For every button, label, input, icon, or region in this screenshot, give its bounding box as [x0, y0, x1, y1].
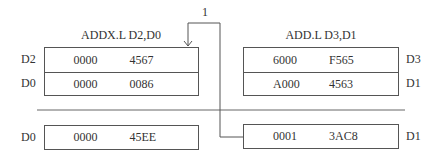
register-high-word: 6000 — [273, 53, 317, 68]
register-high-word: 0000 — [74, 130, 118, 145]
register-low-word: 3AC8 — [329, 129, 369, 144]
register-low-word: F565 — [329, 53, 369, 68]
left-row-label-0: D2 — [21, 47, 36, 71]
register-high-word: 0000 — [74, 77, 118, 92]
left-result-label: D0 — [21, 125, 36, 149]
left-result-box: 0000 45EE — [44, 125, 199, 150]
right-result-box: 0001 3AC8 — [243, 124, 399, 149]
right-instruction-title: ADD.L D3,D1 — [243, 28, 399, 43]
connector-label: 1 — [199, 5, 211, 20]
register-low-word: 0086 — [130, 77, 170, 92]
right-result-label: D1 — [406, 124, 421, 148]
left-result-row: 0000 45EE — [45, 126, 198, 149]
left-register-box: 0000 4567 0000 0086 — [44, 47, 199, 96]
register-low-word: 45EE — [130, 130, 170, 145]
left-instruction-title: ADDX.L D2,D0 — [44, 28, 198, 43]
right-register-row-d3: 6000 F565 — [244, 48, 398, 72]
register-high-word: 0001 — [273, 129, 317, 144]
right-register-box: 6000 F565 A000 4563 — [243, 47, 399, 96]
right-row-label-1: D1 — [406, 71, 421, 95]
register-low-word: 4563 — [329, 77, 369, 92]
register-low-word: 4567 — [130, 53, 170, 68]
register-high-word: A000 — [273, 77, 317, 92]
left-register-row-d2: 0000 4567 — [45, 48, 198, 72]
right-row-label-0: D3 — [406, 47, 421, 71]
right-register-row-d1: A000 4563 — [244, 72, 398, 96]
left-register-row-d0: 0000 0086 — [45, 72, 198, 96]
register-high-word: 0000 — [74, 53, 118, 68]
left-row-label-1: D0 — [21, 71, 36, 95]
right-result-row: 0001 3AC8 — [244, 125, 398, 148]
